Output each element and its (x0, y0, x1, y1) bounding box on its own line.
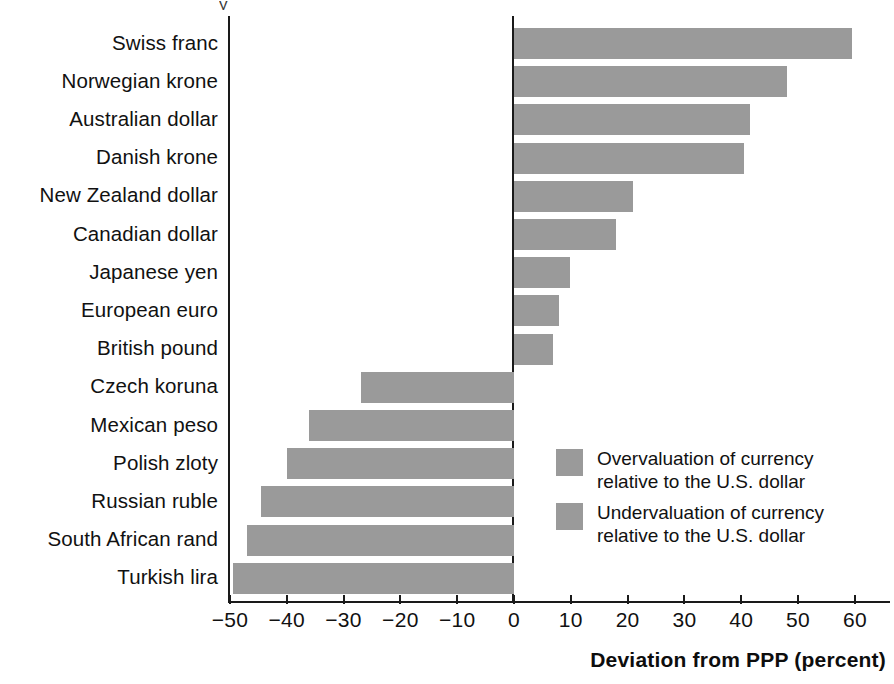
y-axis-line (228, 16, 230, 603)
legend-swatch-icon (556, 449, 583, 476)
x-tick-label: −40 (268, 608, 305, 632)
bar (514, 334, 553, 365)
bar (233, 563, 514, 594)
x-tick (343, 595, 345, 604)
x-axis-title: Deviation from PPP (percent) (0, 648, 886, 672)
category-label: Mexican peso (90, 413, 218, 437)
x-tick (740, 595, 742, 604)
x-tick (854, 595, 856, 604)
category-label: Norwegian krone (62, 69, 218, 93)
bar (514, 219, 616, 250)
legend-item-undervaluation: Undervaluation of currency relative to t… (556, 501, 824, 547)
x-tick-label: 50 (786, 608, 810, 632)
x-tick (797, 595, 799, 604)
x-axis-line (228, 601, 890, 603)
bar (514, 181, 633, 212)
legend-label-undervaluation: Undervaluation of currency relative to t… (597, 501, 824, 547)
category-label: British pound (97, 336, 218, 360)
x-tick-label: 30 (672, 608, 696, 632)
bar (514, 143, 744, 174)
category-label: Russian ruble (91, 489, 218, 513)
bar (287, 448, 514, 479)
bar (514, 295, 559, 326)
bar (361, 372, 514, 403)
bar (261, 486, 514, 517)
category-label: Polish zloty (113, 451, 218, 475)
category-label: European euro (81, 298, 218, 322)
x-tick-label: 10 (559, 608, 583, 632)
x-tick-label: 0 (508, 608, 520, 632)
x-tick (513, 595, 515, 604)
x-tick (286, 595, 288, 604)
x-tick-label: 20 (616, 608, 640, 632)
x-tick-label: 60 (843, 608, 867, 632)
bar (514, 28, 852, 59)
x-tick-label: 40 (729, 608, 753, 632)
x-tick (456, 595, 458, 604)
plot-area: −50−40−30−20−100102030405060 Swiss franc… (0, 0, 894, 684)
category-label: Australian dollar (69, 107, 218, 131)
legend-swatch-icon (556, 503, 583, 530)
x-tick-label: −10 (439, 608, 476, 632)
legend-item-overvaluation: Overvaluation of currency relative to th… (556, 447, 824, 493)
x-tick (229, 595, 231, 604)
bar (247, 525, 514, 556)
category-label: Turkish lira (117, 565, 218, 589)
x-tick (683, 595, 685, 604)
x-tick (399, 595, 401, 604)
bar (514, 66, 787, 97)
chart-figure: y −50−40−30−20−100102030405060 Swiss fra… (0, 0, 894, 684)
legend: Overvaluation of currency relative to th… (556, 447, 824, 555)
bar (514, 104, 750, 135)
bar (309, 410, 514, 441)
category-label: Danish krone (96, 145, 218, 169)
category-label: Canadian dollar (73, 222, 218, 246)
category-label: Swiss franc (112, 31, 218, 55)
category-label: Czech koruna (90, 374, 218, 398)
category-label: New Zealand dollar (40, 183, 218, 207)
x-tick-label: −50 (212, 608, 249, 632)
x-tick (627, 595, 629, 604)
category-label: South African rand (48, 527, 218, 551)
category-label: Japanese yen (89, 260, 218, 284)
legend-label-overvaluation: Overvaluation of currency relative to th… (597, 447, 814, 493)
x-tick-label: −20 (382, 608, 419, 632)
x-tick (570, 595, 572, 604)
x-tick-label: −30 (325, 608, 362, 632)
bar (514, 257, 570, 288)
